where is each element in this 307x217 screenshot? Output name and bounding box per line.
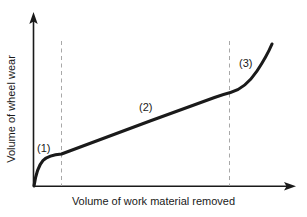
- plot-canvas: [0, 0, 307, 217]
- x-axis-title: Volume of work material removed: [0, 195, 307, 207]
- y-axis-title: Volume of wheel wear: [0, 0, 22, 217]
- wheel-wear-chart: (1) (2) (3) Volume of work material remo…: [0, 0, 307, 217]
- region-label-1: (1): [37, 142, 50, 154]
- wear-curve: [34, 44, 272, 186]
- region-label-3: (3): [239, 57, 252, 69]
- region-label-2: (2): [139, 101, 152, 113]
- y-axis-title-text: Volume of wheel wear: [5, 55, 17, 163]
